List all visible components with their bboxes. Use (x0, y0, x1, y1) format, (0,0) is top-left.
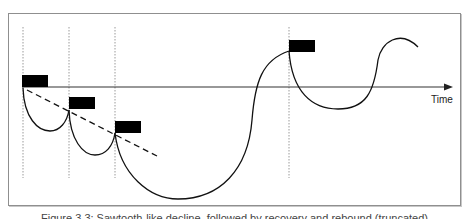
marker-box-2 (69, 97, 95, 109)
marker-box-1 (22, 75, 48, 87)
diagram-canvas (0, 0, 469, 219)
curve-dip-2 (69, 110, 115, 155)
figure-caption: Figure 3.3: Sawtooth-like decline, follo… (0, 212, 469, 219)
marker-box-4 (289, 40, 315, 52)
curve-dip-1 (23, 88, 69, 131)
figure-caption-text: Figure 3.3: Sawtooth-like decline, follo… (41, 212, 428, 219)
time-axis-arrow-icon (444, 84, 453, 91)
curve-deep-dip-recovery (115, 51, 289, 199)
marker-box-3 (115, 121, 141, 133)
time-axis-label: Time (431, 94, 453, 105)
